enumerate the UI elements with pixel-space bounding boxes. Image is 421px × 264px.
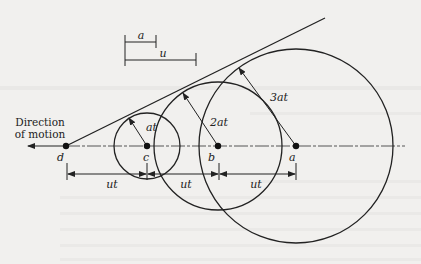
scale-bar-u: u (125, 47, 196, 66)
mach-cone-line (66, 18, 325, 146)
point-d (63, 143, 69, 149)
point-label-a: a (289, 151, 296, 164)
scale-bar-u-label: u (159, 47, 166, 60)
diagram-canvas: a u at 2at 3at d c b a ut ut ut Direc (0, 0, 421, 264)
radius-label-a: 3at (270, 91, 289, 104)
point-label-d: d (57, 151, 64, 164)
point-c (144, 143, 150, 149)
point-a (293, 143, 299, 149)
point-b (215, 143, 221, 149)
radius-label-b: 2at (209, 116, 229, 129)
mach-cone-diagram: a u at 2at 3at d c b a ut ut ut Direc (0, 0, 421, 264)
direction-label-line2: of motion (15, 128, 66, 140)
spacing-label-ba: ut (250, 178, 262, 191)
radius-arrow-c (129, 118, 147, 146)
spacing-label-dc: ut (106, 178, 118, 191)
radius-label-c: at (146, 121, 158, 134)
scale-bar-a: a (125, 29, 156, 48)
point-label-c: c (143, 151, 149, 164)
point-label-b: b (208, 151, 215, 164)
direction-label-line1: Direction (15, 116, 65, 128)
spacing-label-cb: ut (180, 178, 192, 191)
scale-bar-a-label: a (138, 29, 145, 42)
radius-arrow-a (239, 68, 296, 146)
